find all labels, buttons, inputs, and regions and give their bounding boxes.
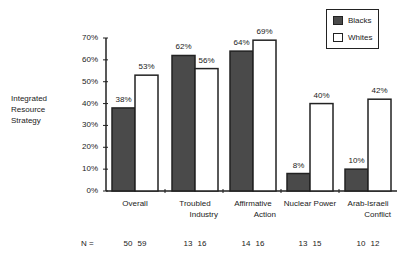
n-value: 10 12 bbox=[348, 239, 388, 248]
n-value: 13 16 bbox=[175, 239, 215, 248]
bar-whites bbox=[135, 75, 158, 191]
bar-value-label: 62% bbox=[169, 42, 199, 51]
bar-blacks bbox=[345, 169, 368, 191]
bar-blacks bbox=[230, 51, 253, 191]
y-tick-label: 0% bbox=[68, 186, 98, 195]
bar-blacks bbox=[112, 108, 135, 191]
whites-swatch-icon bbox=[333, 33, 343, 42]
bar-value-label: 38% bbox=[109, 95, 139, 104]
blacks-swatch-icon bbox=[333, 16, 343, 25]
y-tick-label: 70% bbox=[68, 33, 98, 42]
legend: Blacks Whites bbox=[326, 9, 379, 49]
bar-value-label: 53% bbox=[132, 62, 162, 71]
bar-whites bbox=[310, 104, 333, 191]
legend-label-blacks: Blacks bbox=[348, 16, 372, 25]
n-value: 14 16 bbox=[233, 239, 273, 248]
bar-blacks bbox=[287, 174, 310, 191]
y-tick-label: 20% bbox=[68, 142, 98, 151]
legend-item-blacks: Blacks bbox=[333, 16, 372, 25]
bar-value-label: 10% bbox=[342, 156, 372, 165]
y-tick-label: 60% bbox=[68, 55, 98, 64]
bar-value-label: 8% bbox=[284, 161, 314, 170]
y-tick-label: 40% bbox=[68, 99, 98, 108]
y-tick-label: 30% bbox=[68, 120, 98, 129]
bar-value-label: 56% bbox=[192, 56, 222, 65]
bar-whites bbox=[368, 99, 391, 191]
bar-blacks bbox=[172, 55, 195, 191]
y-tick-label: 10% bbox=[68, 164, 98, 173]
n-label: N = bbox=[81, 239, 94, 248]
bar-whites bbox=[253, 40, 276, 191]
bar-value-label: 42% bbox=[365, 86, 395, 95]
bar-value-label: 64% bbox=[227, 38, 257, 47]
bar-whites bbox=[195, 69, 218, 191]
n-value: 50 59 bbox=[115, 239, 155, 248]
bar-value-label: 69% bbox=[250, 27, 280, 36]
bar-value-label: 40% bbox=[307, 91, 337, 100]
category-label: Arab-IsraeliConflict bbox=[333, 198, 403, 220]
legend-item-whites: Whites bbox=[333, 33, 372, 42]
legend-label-whites: Whites bbox=[348, 33, 372, 42]
n-value: 13 15 bbox=[290, 239, 330, 248]
y-tick-label: 50% bbox=[68, 77, 98, 86]
